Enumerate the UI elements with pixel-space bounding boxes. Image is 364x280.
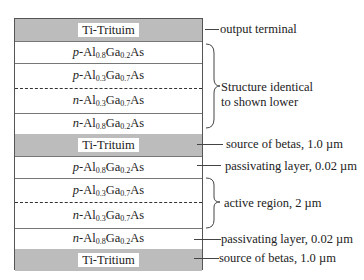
layer-p-AlGaAs-0.3-lower: p-Al0.3Ga0.7As [15, 178, 202, 202]
layer-p-AlGaAs-0.8-lower: p-Al0.8Ga0.2As [15, 156, 202, 178]
annotation-passivating-lower: passivating layer, 0.02 µm [221, 232, 353, 246]
layer-n-AlGaAs-0.3-lower: n-Al0.3Ga0.7As [15, 202, 202, 228]
annotation-structure-identical-line1: Structure identical [221, 80, 313, 94]
layer-label: Ti-Trituim [78, 138, 139, 152]
annotation-passivating-upper: passivating layer, 0.02 µm [225, 159, 357, 173]
layer-top-metal: Ti-Trituim [15, 19, 202, 41]
layer-label: n-Al0.8Ga0.2As [73, 231, 144, 246]
layer-p-AlGaAs-0.3: p-Al0.3Ga0.7As [15, 63, 202, 88]
annotation-active-region: active region, 2 µm [224, 196, 321, 210]
layer-label: n-Al0.3Ga0.7As [73, 208, 144, 223]
layer-label: Ti-Trituim [78, 23, 139, 37]
layer-bottom-metal: Ti-Tritium [15, 249, 202, 271]
layer-label: p-Al0.3Ga0.7As [73, 183, 144, 198]
annotation-output-terminal: output terminal [220, 22, 297, 36]
annotation-structure-identical-line2: to shown lower [221, 95, 298, 109]
leader-line [194, 258, 219, 259]
layer-n-AlGaAs-0.8-lower: n-Al0.8Ga0.2As [15, 228, 202, 249]
layer-p-AlGaAs-0.8: p-Al0.8Ga0.2As [15, 41, 202, 63]
layer-label: Ti-Tritium [78, 253, 139, 267]
layer-n-AlGaAs-0.8: n-Al0.8Ga0.2As [15, 113, 202, 134]
layer-stack: Ti-Trituim p-Al0.8Ga0.2As p-Al0.3Ga0.7As… [14, 18, 203, 270]
layer-label: n-Al0.8Ga0.2As [73, 116, 144, 131]
leader-line [197, 165, 221, 166]
leader-line [194, 239, 221, 240]
leader-line [197, 144, 223, 145]
layer-mid-metal: Ti-Trituim [15, 134, 202, 156]
leader-line [205, 29, 219, 30]
annotation-source-betas-mid: source of betas, 1.0 µm [226, 137, 343, 151]
layer-n-AlGaAs-0.3: n-Al0.3Ga0.7As [15, 88, 202, 113]
annotation-source-betas-bottom: source of betas, 1.0 µm [219, 251, 336, 265]
layer-label: p-Al0.8Ga0.2As [73, 45, 144, 60]
layer-label: n-Al0.3Ga0.7As [73, 93, 144, 108]
layer-label: p-Al0.8Ga0.2As [73, 160, 144, 175]
layer-label: p-Al0.3Ga0.7As [73, 68, 144, 83]
brace-active [204, 177, 224, 229]
